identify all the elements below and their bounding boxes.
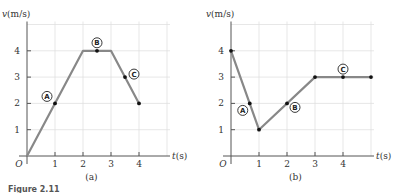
x-axis-label-unit: (s) <box>380 151 392 161</box>
data-point <box>137 102 141 106</box>
x-tick-label: 3 <box>312 159 318 169</box>
data-point <box>53 102 57 106</box>
point-marker-label: A <box>240 107 246 115</box>
x-tick-label: 3 <box>108 159 114 169</box>
panel-a: 12341234Ov(m/s)t(s)ABC(a) <box>2 9 187 183</box>
x-tick-label: 4 <box>340 159 346 169</box>
origin-label: O <box>219 159 227 169</box>
data-point <box>285 102 289 106</box>
figure: 12341234Ov(m/s)t(s)ABC(a) 12341234Ov(m/s… <box>0 0 394 193</box>
panel-b: 12341234Ov(m/s)t(s)ABC(b) <box>206 9 391 183</box>
x-axis-label: t(s) <box>172 151 187 161</box>
y-tick-label: 3 <box>14 72 20 82</box>
data-point <box>123 75 127 79</box>
data-point <box>313 75 317 79</box>
data-point <box>341 75 345 79</box>
data-point <box>229 49 233 53</box>
point-marker-label: C <box>131 71 136 79</box>
velocity-curve <box>231 51 371 130</box>
point-marker-label: B <box>94 39 99 47</box>
x-tick-label: 4 <box>136 159 142 169</box>
x-axis-label-unit: (s) <box>176 151 188 161</box>
y-tick-label: 3 <box>218 72 224 82</box>
panel-label: (a) <box>85 172 97 182</box>
point-marker-label: B <box>292 104 297 112</box>
data-point <box>257 128 261 132</box>
y-axis-label-unit: (m/s) <box>7 9 30 19</box>
x-tick-label: 2 <box>284 159 290 169</box>
panel-label: (b) <box>289 172 302 182</box>
x-axis-label: t(s) <box>376 151 391 161</box>
y-tick-label: 2 <box>218 98 224 108</box>
figure-caption: Figure 2.11 <box>8 185 60 193</box>
data-point <box>248 102 252 106</box>
y-axis-label: v(m/s) <box>206 9 234 19</box>
origin-label: O <box>15 159 23 169</box>
y-tick-label: 4 <box>218 46 224 56</box>
x-tick-label: 1 <box>52 159 58 169</box>
data-point <box>95 49 99 53</box>
x-tick-label: 2 <box>80 159 86 169</box>
y-tick-label: 1 <box>14 125 20 135</box>
point-marker-label: A <box>44 93 50 101</box>
x-tick-label: 1 <box>256 159 262 169</box>
y-tick-label: 1 <box>218 125 224 135</box>
y-axis-label: v(m/s) <box>2 9 30 19</box>
data-point <box>369 75 373 79</box>
point-marker-label: C <box>340 66 345 74</box>
y-tick-label: 2 <box>14 98 20 108</box>
y-tick-label: 4 <box>14 46 20 56</box>
y-axis-label-unit: (m/s) <box>211 9 234 19</box>
